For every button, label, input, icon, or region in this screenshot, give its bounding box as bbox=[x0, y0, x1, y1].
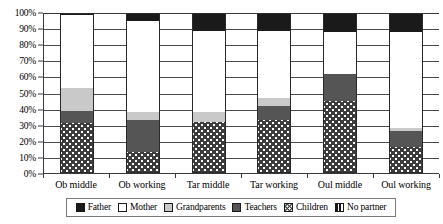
stacked-bar-chart: 0%10%20%30%40%50%60%70%80%90%100% Ob mid… bbox=[0, 0, 443, 224]
bar-segment-teachers[interactable] bbox=[389, 131, 423, 147]
stacked-bar[interactable] bbox=[60, 13, 94, 173]
legend-item[interactable]: Father bbox=[76, 202, 111, 213]
bar-segment-father[interactable] bbox=[323, 13, 357, 32]
legend-label: No partner bbox=[347, 202, 386, 213]
x-axis-category-label: Oul working bbox=[373, 178, 439, 194]
y-axis-tick-label: 30% bbox=[0, 121, 36, 131]
y-axis-tick-label: 100% bbox=[0, 8, 36, 18]
x-axis-category-label: Tar working bbox=[241, 178, 307, 194]
legend-item[interactable]: Grandparents bbox=[164, 202, 225, 213]
y-axis-tick-label: 60% bbox=[0, 72, 36, 82]
y-axis-tick-label: 90% bbox=[0, 24, 36, 34]
bar-segment-children[interactable] bbox=[257, 120, 291, 173]
bar-segment-mother[interactable] bbox=[257, 31, 291, 98]
y-axis-tick-label: 10% bbox=[0, 153, 36, 163]
bars-layer bbox=[44, 13, 439, 173]
legend-label: Grandparents bbox=[176, 202, 225, 213]
bar-segment-father[interactable] bbox=[257, 13, 291, 31]
legend-swatch-icon bbox=[232, 203, 241, 212]
bar-segment-children[interactable] bbox=[126, 152, 160, 173]
plot-wrapper: 0%10%20%30%40%50%60%70%80%90%100% Ob mid… bbox=[0, 0, 443, 180]
x-axis-tick-mark bbox=[439, 174, 440, 178]
legend-item[interactable]: Children bbox=[284, 202, 328, 213]
bar-segment-grandparents[interactable] bbox=[126, 112, 160, 120]
legend-swatch-icon bbox=[284, 203, 293, 212]
stacked-bar[interactable] bbox=[257, 13, 291, 173]
bar-segment-father[interactable] bbox=[389, 13, 423, 32]
legend-swatch-icon bbox=[335, 203, 344, 212]
x-axis-labels: Ob middleOb workingTar middleTar working… bbox=[43, 178, 439, 194]
y-axis-tick-label: 70% bbox=[0, 56, 36, 66]
bar-segment-father[interactable] bbox=[126, 13, 160, 21]
bar-segment-grandparents[interactable] bbox=[257, 98, 291, 106]
bar-slot bbox=[373, 13, 439, 173]
bar-slot bbox=[110, 13, 176, 173]
y-axis-tick-label: 80% bbox=[0, 40, 36, 50]
bar-slot bbox=[176, 13, 242, 173]
chart-legend: FatherMotherGrandparentsTeachersChildren… bbox=[66, 198, 396, 217]
bar-segment-grandparents[interactable] bbox=[192, 112, 226, 122]
bar-segment-children[interactable] bbox=[323, 101, 357, 173]
y-axis-tick-label: 0% bbox=[0, 169, 36, 179]
legend-swatch-icon bbox=[164, 203, 173, 212]
x-axis-category-label: Ob middle bbox=[43, 178, 109, 194]
bar-segment-children[interactable] bbox=[60, 123, 94, 173]
bar-segment-teachers[interactable] bbox=[126, 120, 160, 152]
bar-segment-children[interactable] bbox=[192, 122, 226, 173]
bar-segment-teachers[interactable] bbox=[323, 74, 357, 101]
stacked-bar[interactable] bbox=[323, 13, 357, 173]
bar-slot bbox=[307, 13, 373, 173]
legend-swatch-icon bbox=[76, 203, 85, 212]
bar-segment-children[interactable] bbox=[389, 147, 423, 173]
bar-segment-mother[interactable] bbox=[323, 32, 357, 74]
x-axis-category-label: Tar middle bbox=[175, 178, 241, 194]
stacked-bar[interactable] bbox=[126, 13, 160, 173]
y-axis-tick-label: 20% bbox=[0, 137, 36, 147]
x-axis-category-label: Oul middle bbox=[307, 178, 373, 194]
legend-label: Mother bbox=[130, 202, 157, 213]
bar-segment-father[interactable] bbox=[192, 13, 226, 31]
y-axis-tick-label: 40% bbox=[0, 105, 36, 115]
y-axis-tick-label: 50% bbox=[0, 89, 36, 99]
legend-item[interactable]: Mother bbox=[118, 202, 157, 213]
bar-slot bbox=[241, 13, 307, 173]
bar-segment-mother[interactable] bbox=[60, 15, 94, 89]
bar-segment-grandparents[interactable] bbox=[60, 88, 94, 110]
bar-segment-teachers[interactable] bbox=[60, 111, 94, 124]
plot-area bbox=[43, 13, 439, 174]
bar-slot bbox=[44, 13, 110, 173]
bar-segment-mother[interactable] bbox=[126, 21, 160, 112]
stacked-bar[interactable] bbox=[389, 13, 423, 173]
legend-swatch-icon bbox=[118, 203, 127, 212]
x-axis-category-label: Ob working bbox=[109, 178, 175, 194]
y-axis: 0%10%20%30%40%50%60%70%80%90%100% bbox=[0, 8, 36, 176]
legend-label: Father bbox=[88, 202, 111, 213]
legend-item[interactable]: No partner bbox=[335, 202, 386, 213]
legend-item[interactable]: Teachers bbox=[232, 202, 276, 213]
bar-segment-mother[interactable] bbox=[192, 31, 226, 113]
bar-segment-mother[interactable] bbox=[389, 32, 423, 128]
legend-label: Children bbox=[296, 202, 328, 213]
stacked-bar[interactable] bbox=[192, 13, 226, 173]
bar-segment-teachers[interactable] bbox=[257, 106, 291, 120]
legend-label: Teachers bbox=[244, 202, 276, 213]
